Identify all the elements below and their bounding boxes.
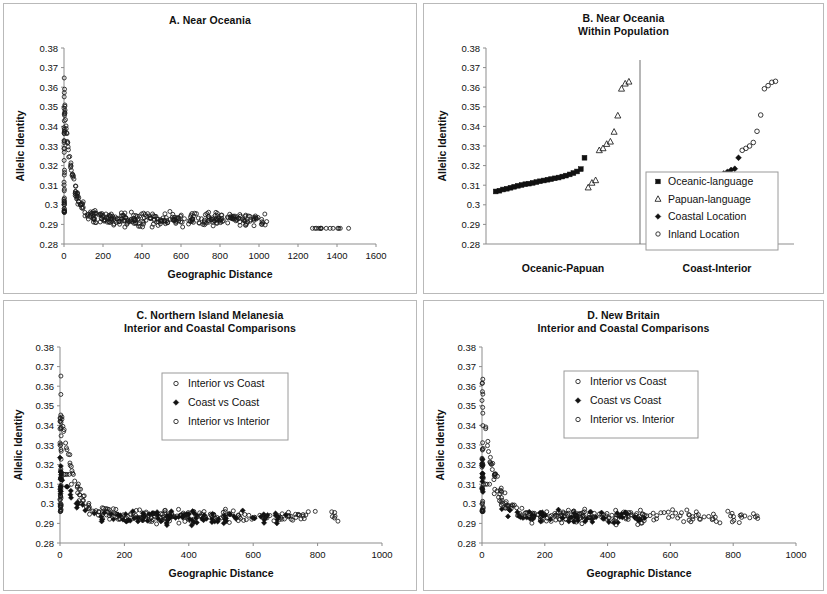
data-point [247, 513, 251, 517]
data-point [59, 392, 63, 396]
data-point [168, 209, 172, 213]
data-point [530, 521, 534, 525]
group-label: Oceanic-Papuan [522, 262, 604, 274]
data-point [626, 78, 632, 84]
panel-b: B. Near Oceania Within Population 0.280.… [423, 3, 824, 294]
data-point [682, 520, 686, 524]
data-point [676, 516, 680, 520]
panel-b-plot: 0.280.290.30.310.320.330.340.350.360.370… [424, 4, 824, 294]
data-point [607, 138, 613, 144]
data-point [685, 508, 689, 512]
data-point [747, 144, 752, 149]
data-point [347, 226, 351, 230]
data-point [263, 212, 267, 216]
y-tick-label: 0.28 [462, 239, 481, 250]
y-tick-label: 0.3 [467, 199, 480, 210]
y-tick-label: 0.35 [36, 400, 55, 411]
y-tick-label: 0.33 [462, 141, 481, 152]
data-point [231, 509, 235, 513]
x-tick-label: 200 [116, 549, 132, 560]
y-tick-label: 0.31 [40, 180, 59, 191]
legend-label: Coastal Location [668, 210, 746, 222]
data-point [244, 518, 248, 522]
y-tick-label: 0.32 [458, 459, 477, 470]
data-point [670, 514, 674, 518]
y-tick-label: 0.38 [458, 342, 477, 353]
data-point [64, 441, 68, 445]
data-point [671, 508, 675, 512]
y-tick-label: 0.32 [462, 160, 481, 171]
legend-label: Papuan-language [668, 193, 751, 205]
panel-c: C. Northern Island Melanesia Interior an… [3, 300, 417, 591]
y-tick-label: 0.29 [458, 518, 477, 529]
y-tick-label: 0.29 [462, 219, 481, 230]
panel-d: D. New Britain Interior and Coastal Comp… [423, 300, 824, 591]
data-point [272, 519, 276, 523]
y-tick-label: 0.35 [458, 400, 477, 411]
x-tick-label: 1000 [371, 549, 392, 560]
x-tick-label: 200 [537, 549, 553, 560]
data-point [252, 224, 256, 228]
data-point [177, 521, 181, 525]
data-point [755, 129, 760, 134]
y-tick-label: 0.36 [40, 82, 59, 93]
x-tick-label: 600 [662, 549, 678, 560]
data-point [163, 212, 167, 216]
data-point [182, 217, 186, 221]
y-tick-label: 0.31 [462, 180, 481, 191]
x-tick-label: 400 [181, 549, 197, 560]
x-tick-label: 0 [61, 250, 66, 261]
y-tick-label: 0.34 [458, 420, 477, 431]
data-point [751, 140, 756, 145]
data-point [520, 506, 524, 510]
x-tick-label: 800 [212, 250, 228, 261]
y-tick-label: 0.29 [36, 518, 55, 529]
y-axis-title: Allelic Identity [14, 110, 26, 181]
legend-label: Interior vs Coast [590, 375, 667, 387]
data-point [487, 450, 491, 454]
x-tick-label: 400 [134, 250, 150, 261]
y-axis-title: Allelic Identity [12, 409, 24, 480]
data-point [593, 177, 599, 183]
data-point [155, 522, 159, 526]
y-tick-label: 0.37 [40, 62, 59, 73]
data-point [758, 113, 763, 118]
legend: Oceanic-languagePapuan-languageCoastal L… [646, 172, 778, 250]
panel-c-plot: 0.280.290.30.310.320.330.340.350.360.370… [4, 301, 417, 591]
y-tick-label: 0.33 [36, 440, 55, 451]
data-point [490, 468, 494, 472]
group-label: Coast-Interior [683, 262, 752, 274]
data-point [718, 521, 722, 525]
data-point [114, 507, 118, 511]
y-tick-label: 0.36 [36, 381, 55, 392]
panel-a-plot: 0.280.290.30.310.320.330.340.350.360.370… [4, 4, 417, 294]
data-point [66, 148, 70, 152]
x-tick-label: 800 [310, 549, 326, 560]
y-tick-label: 0.37 [458, 361, 477, 372]
data-point [310, 226, 314, 230]
x-tick-label: 1400 [326, 250, 347, 261]
y-tick-label: 0.34 [36, 420, 55, 431]
data-point [615, 112, 621, 118]
data-point [306, 510, 310, 514]
data-point [702, 515, 706, 519]
panel-a: A. Near Oceania 0.280.290.30.310.320.330… [3, 3, 417, 294]
data-point [736, 155, 742, 161]
figure-four-panel-scatter: A. Near Oceania 0.280.290.30.310.320.330… [0, 0, 827, 594]
data-point [129, 210, 133, 214]
data-point [606, 519, 611, 524]
legend: Interior vs CoastCoast vs CoastInterior … [162, 373, 288, 440]
data-point [324, 226, 328, 230]
y-tick-label: 0.28 [40, 239, 59, 250]
data-point [336, 519, 340, 523]
y-tick-label: 0.38 [40, 43, 59, 54]
legend-label: Interior vs Coast [188, 377, 265, 389]
y-axis-title: Allelic Identity [436, 110, 448, 181]
data-point [280, 512, 284, 516]
x-tick-label: 0 [479, 549, 484, 560]
data-points-group [62, 76, 351, 230]
y-tick-label: 0.31 [36, 479, 55, 490]
data-point [73, 479, 77, 483]
data-point [243, 513, 247, 517]
x-tick-label: 0 [57, 549, 62, 560]
